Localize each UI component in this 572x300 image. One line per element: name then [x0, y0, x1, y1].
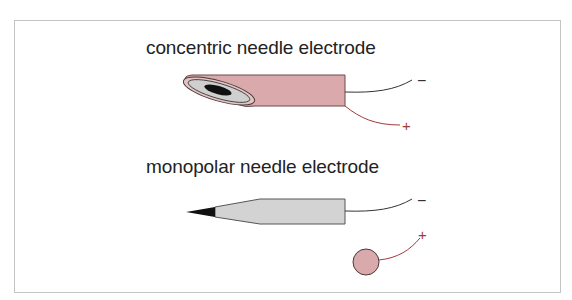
monopolar-shaft: [215, 199, 345, 224]
monopolar-wire-positive: [379, 238, 420, 260]
electrode-illustration: − + − +: [0, 0, 572, 300]
concentric-wire-negative: [345, 80, 412, 92]
monopolar-tip: [186, 207, 215, 217]
monopolar-negative-label: −: [417, 192, 426, 209]
concentric-positive-label: +: [402, 117, 411, 134]
monopolar-wire-negative: [345, 199, 412, 211]
reference-electrode: [353, 249, 379, 275]
monopolar-positive-label: +: [418, 226, 427, 243]
monopolar-needle: − +: [186, 192, 427, 275]
concentric-wire-positive: [345, 106, 400, 125]
concentric-needle: − +: [181, 71, 427, 134]
concentric-negative-label: −: [417, 72, 426, 89]
